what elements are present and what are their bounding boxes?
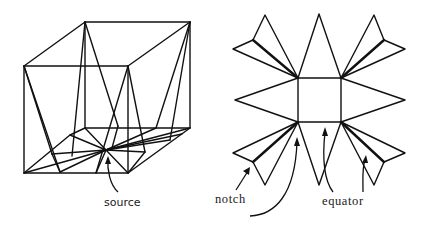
star-unfolding-diagram: notch equator bbox=[215, 14, 405, 216]
notch-label: notch bbox=[215, 192, 246, 206]
central-square bbox=[298, 78, 341, 122]
shortest-paths bbox=[24, 22, 190, 173]
figure-canvas: source bbox=[0, 0, 433, 232]
cube-diagram: source bbox=[24, 22, 190, 209]
spike-right bbox=[341, 78, 405, 122]
cube-edge-tr bbox=[128, 22, 190, 66]
spike-top bbox=[298, 14, 341, 78]
flap-top-right bbox=[341, 15, 405, 78]
equator-label: equator bbox=[322, 194, 364, 208]
spike-bottom bbox=[298, 122, 341, 185]
source-label: source bbox=[104, 196, 141, 209]
cube-edge-tl bbox=[24, 22, 85, 66]
flap-top-left bbox=[233, 15, 298, 78]
flap-bottom-left bbox=[233, 122, 298, 185]
flap-bottom-right bbox=[341, 122, 405, 185]
spike-left bbox=[235, 78, 298, 122]
